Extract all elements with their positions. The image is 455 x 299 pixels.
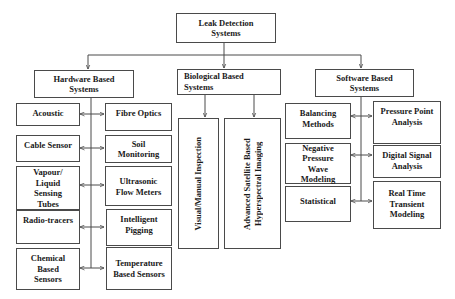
hardware-label-line1: Hardware Based bbox=[54, 74, 115, 85]
hardware-label-line2: Systems bbox=[69, 84, 98, 95]
biological-item-visual-manual-inspection: Visual/Manual Inspection bbox=[178, 118, 219, 249]
hardware-item-soil-monitoring: Soil Monitoring bbox=[105, 135, 172, 163]
hardware-item-acoustic: Acoustic bbox=[16, 103, 80, 126]
biological-label-line2: Systems bbox=[184, 82, 213, 93]
root-label-line2: Systems bbox=[211, 28, 240, 39]
software-label-line2: Systems bbox=[350, 83, 379, 94]
hardware-item-chemical-based-sensors: Chemical Based Sensors bbox=[16, 248, 80, 290]
software-item-balancing-methods: Balancing Methods bbox=[285, 103, 351, 139]
category-software-based-systems: Software Based Systems bbox=[315, 69, 414, 97]
category-biological-based-systems: Biological Based Systems bbox=[177, 69, 281, 95]
hardware-item-cable-sensor: Cable Sensor bbox=[16, 135, 80, 162]
hardware-item-temperature-based-sensors: Temperature Based Sensors bbox=[106, 247, 172, 290]
hardware-item-vapour-liquid-sensing-tubes: Vapour/ Liquid Sensing Tubes bbox=[16, 166, 80, 210]
software-item-negative-pressure-wave-modeling: Negative Pressure Wave Modeling bbox=[285, 143, 351, 184]
software-item-statistical: Statistical bbox=[285, 186, 351, 222]
software-item-digital-signal-analysis: Digital Signal Analysis bbox=[373, 145, 441, 178]
hardware-item-ultrasonic-flow-meters: Ultrasonic Flow Meters bbox=[105, 166, 172, 206]
biological-item-advanced-satellite-hyperspectral-imaging: Advanced Satellite Based Hyperspectral I… bbox=[224, 118, 281, 249]
software-item-pressure-point-analysis: Pressure Point Analysis bbox=[373, 101, 441, 144]
hardware-item-intelligent-pigging: Intelligent Pigging bbox=[106, 209, 172, 246]
root-label-line1: Leak Detection bbox=[198, 18, 253, 29]
hardware-item-radio-tracers: Radio-tracers bbox=[16, 210, 80, 244]
software-item-real-time-transient-modeling: Real Time Transient Modeling bbox=[373, 181, 441, 229]
root-node-leak-detection-systems: Leak Detection Systems bbox=[176, 13, 276, 43]
leak-detection-diagram: Leak Detection Systems Hardware Based Sy… bbox=[0, 0, 455, 299]
hardware-item-fibre-optics: Fibre Optics bbox=[105, 103, 172, 131]
category-hardware-based-systems: Hardware Based Systems bbox=[34, 70, 134, 98]
biological-label-line1: Biological Based bbox=[184, 71, 244, 82]
software-label-line1: Software Based bbox=[336, 73, 392, 84]
